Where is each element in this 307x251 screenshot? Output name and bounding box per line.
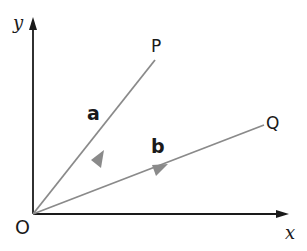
y-axis-label: y <box>13 14 23 32</box>
vector-b-arrow-icon <box>152 164 168 176</box>
origin-label: O <box>15 218 30 237</box>
vector-a-arrow-icon <box>91 150 104 168</box>
x-axis-label: x <box>285 224 295 242</box>
point-p-label: P <box>151 38 161 55</box>
x-axis-arrow-icon <box>276 210 289 218</box>
point-q-label: Q <box>266 115 279 132</box>
vector-a-label: a <box>87 104 100 123</box>
y-axis-arrow-icon <box>29 17 37 30</box>
vector-b-label: b <box>151 137 165 156</box>
